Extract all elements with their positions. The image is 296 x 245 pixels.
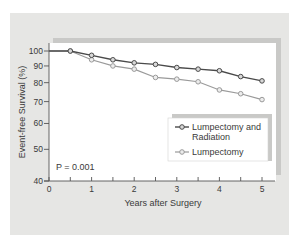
data-point-marker bbox=[132, 67, 137, 72]
survival-chart: 405060708090100 012345 Event-free Surviv… bbox=[0, 0, 296, 245]
y-tick-label: 40 bbox=[34, 176, 44, 186]
x-tick-label: 0 bbox=[47, 184, 52, 194]
data-point-marker bbox=[260, 97, 265, 102]
legend-label-2: Lumpectomy bbox=[192, 147, 244, 157]
y-tick-label: 70 bbox=[34, 97, 44, 107]
data-point-marker bbox=[89, 53, 94, 58]
data-point-marker bbox=[111, 64, 116, 69]
y-tick-label: 80 bbox=[34, 78, 44, 88]
data-point-marker bbox=[111, 57, 116, 62]
data-point-marker bbox=[238, 91, 243, 96]
legend-label-1b: Radiation bbox=[192, 132, 230, 142]
legend-label-1a: Lumpectomy and bbox=[192, 122, 261, 132]
y-axis-title: Event-free Survival (%) bbox=[17, 66, 27, 159]
data-point-marker bbox=[132, 61, 137, 66]
plot-shadow-top bbox=[53, 38, 281, 43]
data-point-marker bbox=[260, 79, 265, 84]
p-value-annotation: P = 0.001 bbox=[56, 162, 95, 172]
data-point-marker bbox=[238, 74, 243, 79]
x-tick-label: 2 bbox=[132, 184, 137, 194]
y-tick-label: 50 bbox=[34, 144, 44, 154]
legend-marker-light-icon bbox=[180, 150, 185, 155]
y-ticks: 405060708090100 bbox=[29, 46, 49, 186]
data-point-marker bbox=[196, 79, 201, 84]
legend-shadow-right bbox=[268, 114, 272, 161]
plot-shadow-right bbox=[276, 38, 281, 175]
data-point-marker bbox=[175, 77, 180, 82]
y-tick-label: 90 bbox=[34, 61, 44, 71]
x-tick-label: 4 bbox=[217, 184, 222, 194]
data-point-marker bbox=[175, 65, 180, 70]
x-tick-label: 5 bbox=[260, 184, 265, 194]
y-tick-label: 100 bbox=[29, 46, 43, 56]
data-point-marker bbox=[217, 68, 222, 73]
x-tick-label: 3 bbox=[174, 184, 179, 194]
legend: Lumpectomy and Radiation Lumpectomy bbox=[168, 114, 272, 161]
data-point-marker bbox=[196, 67, 201, 72]
x-tick-label: 1 bbox=[89, 184, 94, 194]
data-point-marker bbox=[68, 49, 73, 54]
legend-marker-dark-icon bbox=[180, 125, 185, 130]
data-point-marker bbox=[153, 62, 158, 67]
data-point-marker bbox=[89, 57, 94, 62]
legend-shadow-top bbox=[172, 114, 272, 118]
data-point-marker bbox=[217, 88, 222, 93]
y-tick-label: 60 bbox=[34, 118, 44, 128]
x-axis-title: Years after Surgery bbox=[124, 198, 202, 208]
data-point-marker bbox=[153, 75, 158, 80]
